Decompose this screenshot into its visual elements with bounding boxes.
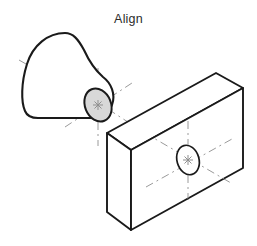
block-left-face [107,133,131,230]
solid-face-center-mark [93,100,103,110]
isometric-block [107,73,243,230]
diagram-canvas: Align [0,0,257,246]
align-illustration [0,0,257,246]
block-hole-center-mark [183,155,193,165]
